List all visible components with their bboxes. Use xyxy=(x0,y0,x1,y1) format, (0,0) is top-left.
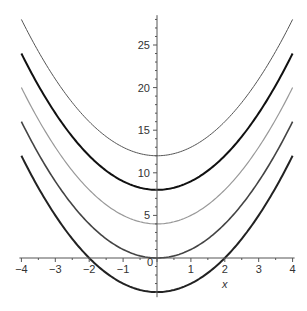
x-tick-label: −4 xyxy=(15,263,28,275)
x-axis-label: x xyxy=(221,278,228,290)
x-tick-label: 3 xyxy=(256,263,262,275)
x-tick-label: −3 xyxy=(49,263,62,275)
x-tick-label: 2 xyxy=(222,263,228,275)
y-tick-label: 5 xyxy=(144,209,150,221)
parabola-family-chart: −4−3−2−112345101520250x xyxy=(0,0,307,311)
x-tick-label: −1 xyxy=(117,263,130,275)
y-tick-label: 10 xyxy=(138,167,150,179)
y-tick-label: 15 xyxy=(138,124,150,136)
x-tick-label: −2 xyxy=(83,263,96,275)
y-tick-label: 20 xyxy=(138,82,150,94)
x-tick-label: 1 xyxy=(188,263,194,275)
origin-label: 0 xyxy=(147,256,153,268)
y-tick-label: 25 xyxy=(138,39,150,51)
axes xyxy=(19,15,294,297)
x-tick-label: 4 xyxy=(290,263,296,275)
